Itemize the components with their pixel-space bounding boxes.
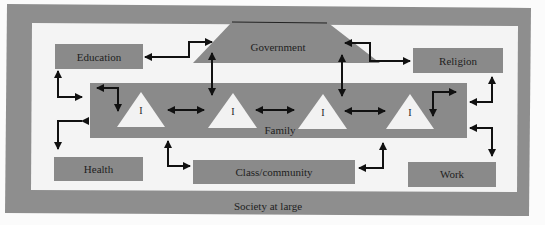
individual-label-2: I (228, 107, 238, 117)
society-diagram: Government Education Religion Family Hea… (0, 0, 545, 225)
religion-label: Religion (413, 56, 503, 67)
individual-label-3: I (318, 108, 328, 118)
government-label: Government (248, 42, 308, 53)
education-label: Education (55, 52, 143, 63)
individual-label-1: I (136, 106, 146, 116)
health-label: Health (54, 164, 143, 175)
diagram-canvas (0, 0, 545, 225)
work-label: Work (408, 169, 496, 180)
family-label: Family (250, 125, 310, 136)
society-at-large-label: Society at large (218, 201, 318, 212)
individual-label-4: I (405, 108, 415, 118)
class-community-label: Class/community (193, 167, 355, 178)
